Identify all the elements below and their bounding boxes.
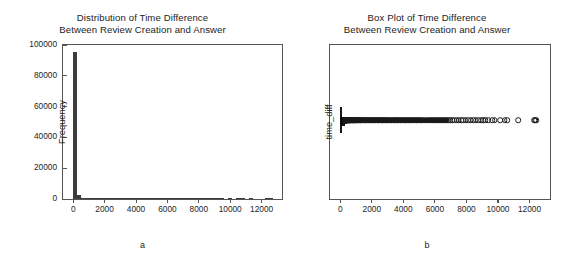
x-tick-label: 4000 bbox=[127, 204, 145, 215]
y-tick-mark bbox=[63, 168, 67, 169]
y-tick-label: 0 bbox=[52, 193, 57, 204]
histogram-bars bbox=[63, 45, 282, 199]
x-tick-mark bbox=[434, 199, 435, 203]
x-tick-label: 0 bbox=[71, 204, 76, 215]
x-tick-label: 12000 bbox=[250, 204, 273, 215]
x-tick-mark bbox=[167, 199, 168, 203]
histogram-bar bbox=[220, 198, 224, 199]
histogram-bar bbox=[73, 52, 77, 199]
boxplot-outlier-point bbox=[505, 118, 511, 124]
panel-b-plot-frame: 020004000600080001000012000 Time Differe… bbox=[329, 44, 551, 200]
x-tick-mark bbox=[371, 199, 372, 203]
histogram-bar bbox=[241, 198, 245, 199]
x-tick-mark bbox=[198, 199, 199, 203]
x-tick-label: 0 bbox=[338, 204, 343, 215]
x-tick-mark bbox=[104, 199, 105, 203]
panel-b-y-axis-label: time_diff bbox=[324, 77, 334, 167]
x-tick-mark bbox=[403, 199, 404, 203]
y-tick-label: 100000 bbox=[29, 39, 57, 50]
x-tick-mark bbox=[497, 199, 498, 203]
panel-a-title: Distribution of Time Difference Between … bbox=[0, 12, 285, 35]
x-tick-label: 12000 bbox=[518, 204, 541, 215]
x-tick-label: 6000 bbox=[158, 204, 176, 215]
figure-root: Distribution of Time Difference Between … bbox=[0, 0, 569, 267]
x-tick-mark bbox=[466, 199, 467, 203]
histogram-bar bbox=[269, 198, 273, 199]
panel-a-sublabel: a bbox=[0, 240, 285, 250]
panel-a-plot-frame: 020000400006000080000100000 020004000600… bbox=[62, 44, 283, 200]
x-tick-label: 8000 bbox=[457, 204, 475, 215]
panel-b-title-line2: Between Review Creation and Answer bbox=[285, 24, 569, 36]
y-tick-label: 40000 bbox=[34, 131, 57, 142]
boxplot-outlier-point bbox=[515, 118, 521, 124]
panel-a-y-axis-label: Frequency bbox=[57, 77, 67, 167]
panel-a-title-line1: Distribution of Time Difference bbox=[0, 12, 285, 24]
x-tick-label: 6000 bbox=[426, 204, 444, 215]
x-tick-label: 10000 bbox=[486, 204, 509, 215]
x-tick-mark bbox=[136, 199, 137, 203]
x-tick-label: 8000 bbox=[190, 204, 208, 215]
y-tick-mark bbox=[63, 199, 67, 200]
x-tick-mark bbox=[73, 199, 74, 203]
x-tick-label: 2000 bbox=[363, 204, 381, 215]
x-tick-mark bbox=[529, 199, 530, 203]
boxplot-outlier-point bbox=[533, 118, 539, 124]
panel-b-title-line1: Box Plot of Time Difference bbox=[285, 12, 569, 24]
panel-b-sublabel: b bbox=[285, 240, 569, 250]
y-tick-label: 80000 bbox=[34, 70, 57, 81]
x-tick-label: 10000 bbox=[219, 204, 242, 215]
x-tick-label: 2000 bbox=[95, 204, 113, 215]
panel-b-boxplot: Box Plot of Time Difference Between Revi… bbox=[285, 0, 569, 267]
y-tick-mark bbox=[63, 45, 67, 46]
panel-a-histogram: Distribution of Time Difference Between … bbox=[0, 0, 285, 267]
panel-a-title-line2: Between Review Creation and Answer bbox=[0, 24, 285, 36]
panel-b-title: Box Plot of Time Difference Between Revi… bbox=[285, 12, 569, 35]
x-tick-mark bbox=[340, 199, 341, 203]
y-tick-label: 60000 bbox=[34, 101, 57, 112]
x-tick-label: 4000 bbox=[394, 204, 412, 215]
x-tick-mark bbox=[230, 199, 231, 203]
histogram-bar bbox=[249, 198, 253, 199]
x-tick-mark bbox=[261, 199, 262, 203]
y-tick-label: 20000 bbox=[34, 162, 57, 173]
boxplot-series bbox=[330, 45, 550, 199]
